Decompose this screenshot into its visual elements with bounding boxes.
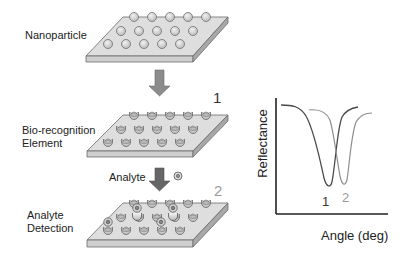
step-label-bio-recognition-line2: Element: [22, 137, 62, 150]
step-label-nanoparticle: Nanoparticle: [25, 29, 87, 42]
step-label-analyte-detection-line2: Detection: [27, 222, 73, 235]
curve-label-1: 1: [322, 194, 329, 209]
step-label-bio-recognition-line1: Bio-recognition: [22, 124, 95, 137]
curve-1: [281, 105, 358, 186]
step-marker-1: 1: [213, 90, 221, 105]
y-axis-label: Reflectance: [255, 106, 270, 182]
reflectance-chart: [276, 98, 388, 214]
arrow-down-icon: [149, 70, 170, 96]
plate-nanoparticle: [86, 13, 228, 63]
arrow-label-analyte: Analyte: [109, 171, 146, 184]
step-label-analyte-detection-line1: Analyte: [27, 209, 64, 222]
step-marker-2: 2: [214, 183, 222, 198]
arrow-down-icon: [149, 168, 170, 191]
plate-analyte-detection: [87, 200, 228, 247]
curve-label-2: 2: [342, 190, 349, 205]
plate-bio-recognition: [87, 112, 228, 157]
analyte-icon: [174, 172, 182, 180]
x-axis-label: Angle (deg): [321, 228, 388, 243]
